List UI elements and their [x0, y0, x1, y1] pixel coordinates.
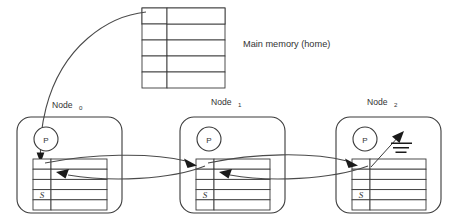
- node-1-processor-label: P: [206, 136, 211, 145]
- node-2-cache-row-4-left: [352, 200, 370, 210]
- node-0-cache-row-1-left: [33, 169, 51, 179]
- node-0-processor-label: P: [43, 136, 48, 145]
- node-2-cache-row-3-right: [370, 190, 426, 200]
- node-2-cache-state-label: S: [359, 190, 364, 200]
- node-1-cache-row-4-left: [196, 200, 214, 210]
- main-memory-row-1-left: [142, 24, 167, 40]
- node-1-cache-row-2-left: [196, 179, 214, 189]
- coherence-diagram: Main memory (home) Node 0 P S: [0, 0, 451, 224]
- node-2-cache-row-1-right: [370, 169, 426, 179]
- main-memory-row-4-right: [167, 72, 225, 88]
- node-0-cache-row-2-left: [33, 179, 51, 189]
- node-2-cache-row-2-right: [370, 179, 426, 189]
- node-0-cache-row-2-right: [51, 179, 107, 189]
- node-1-cache-row-4-right: [214, 200, 270, 210]
- main-memory-row-4-left: [142, 72, 167, 88]
- node-0-cache-table: S: [33, 159, 107, 210]
- main-memory-row-3-left: [142, 56, 167, 72]
- main-memory-row-0-left: [142, 8, 167, 24]
- node-2-cache-row-4-right: [370, 200, 426, 210]
- node-1-cache-row-1-left: [196, 169, 214, 179]
- node-1-cache-state-label: S: [203, 190, 208, 200]
- node-0-cache-row-3-right: [51, 190, 107, 200]
- main-memory-row-2-right: [167, 40, 225, 56]
- main-memory-row-3-right: [167, 56, 225, 72]
- main-memory-label: Main memory (home): [243, 39, 330, 49]
- node-0-cache-row-4-right: [51, 200, 107, 210]
- node-2-cache-row-2-left: [352, 179, 370, 189]
- node-1-cache-row-2-right: [214, 179, 270, 189]
- node-1-cache-table: S: [196, 159, 270, 210]
- node-2-processor-label: P: [362, 136, 367, 145]
- writeback-bar-3: [396, 152, 407, 154]
- node-0-group: Node 0 P S: [17, 100, 122, 213]
- node-1-label: Node: [211, 97, 232, 107]
- node-2-cache-row-0-right: [370, 159, 426, 169]
- node-1-cache-row-0-left: [196, 159, 214, 169]
- node-0-label: Node: [52, 100, 73, 110]
- node-0-cache-state-label: S: [40, 190, 45, 200]
- node-1-subscript: 1: [238, 101, 242, 108]
- node-0-cache-row-0-left: [33, 159, 51, 169]
- main-memory-row-0-right: [167, 8, 225, 24]
- node-0-cache-row-4-left: [33, 200, 51, 210]
- main-memory-table: [142, 8, 225, 88]
- writeback-bar-1: [391, 143, 412, 145]
- node-2-label: Node: [367, 97, 388, 107]
- node0-node1-upper-arrowhead: [184, 159, 197, 169]
- main-memory-row-1-right: [167, 24, 225, 40]
- main-memory-row-2-left: [142, 40, 167, 56]
- node-2-subscript: 2: [394, 101, 398, 108]
- node-2-cache-table: S: [352, 159, 426, 210]
- writeback-bar-2: [393, 147, 409, 149]
- node-1-cache-row-3-right: [214, 190, 270, 200]
- diagram-root: Main memory (home) Node 0 P S: [0, 0, 451, 224]
- node-2-group: Node 2 P S: [336, 97, 441, 213]
- node-0-subscript: 0: [79, 104, 83, 111]
